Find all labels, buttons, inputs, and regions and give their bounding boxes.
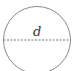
diameter-label: d xyxy=(33,24,41,39)
circle-diagram: d xyxy=(0,0,75,71)
